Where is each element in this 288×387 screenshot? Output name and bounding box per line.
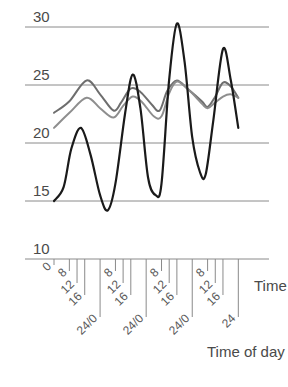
gridlines	[25, 27, 269, 259]
x-tick-label: 24/0	[120, 311, 147, 338]
line-chart: 1015202530 08121624/08121624/08121624/08…	[0, 0, 288, 387]
x-axis-end-label: Time	[254, 277, 287, 294]
y-axis-ticks: 1015202530	[33, 8, 50, 257]
y-tick-label: 10	[33, 240, 50, 257]
y-tick-label: 15	[33, 182, 50, 199]
x-axis-title: Time of day	[207, 343, 285, 360]
y-tick-label: 25	[33, 66, 50, 83]
x-tick-label: 24/0	[74, 311, 101, 338]
y-tick-label: 20	[33, 124, 50, 141]
x-tick-label: 24/0	[166, 311, 193, 338]
y-tick-label: 30	[33, 8, 50, 25]
x-axis-ticks: 08121624/08121624/08121624/08121624	[39, 259, 238, 338]
data-series	[54, 23, 238, 210]
x-tick-label: 0	[39, 259, 54, 274]
x-tick-label: 24	[219, 311, 239, 331]
black-curve	[54, 23, 238, 210]
